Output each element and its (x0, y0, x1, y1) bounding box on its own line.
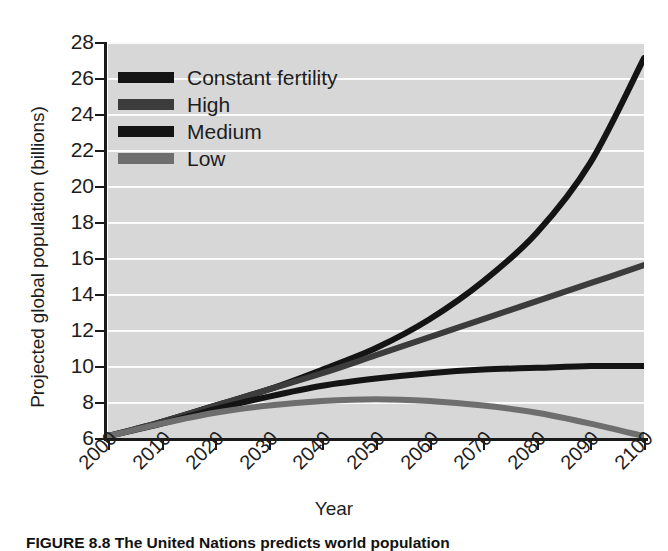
x-axis-title: Year (0, 498, 668, 520)
legend-label: Constant fertility (187, 67, 338, 88)
chart-legend: Constant fertilityHighMediumLow (118, 64, 368, 172)
legend-label: Low (187, 148, 226, 169)
x-tick-label: 2070 (449, 427, 497, 475)
x-tick-label: 2100 (610, 427, 658, 475)
x-tick-label: 2040 (288, 427, 336, 475)
legend-item: Medium (118, 118, 368, 145)
x-tick-label: 2080 (503, 427, 551, 475)
legend-item: Low (118, 145, 368, 172)
x-tick-label: 2060 (396, 427, 444, 475)
x-tick-label: 2050 (342, 427, 390, 475)
legend-item: Constant fertility (118, 64, 368, 91)
legend-swatch (118, 126, 174, 137)
x-tick-label: 2090 (556, 427, 604, 475)
legend-item: High (118, 91, 368, 118)
figure-population-projection: Projected global population (billions) 6… (0, 0, 668, 551)
x-tick-label: 2020 (181, 427, 229, 475)
figure-caption: FIGURE 8.8 The United Nations predicts w… (26, 534, 656, 551)
legend-swatch (118, 99, 174, 110)
legend-swatch (118, 153, 174, 164)
x-tick-label: 2030 (235, 427, 283, 475)
legend-label: Medium (187, 121, 262, 142)
x-tick-label: 2000 (74, 427, 122, 475)
legend-swatch (118, 72, 174, 83)
legend-label: High (187, 94, 230, 115)
x-tick-label: 2010 (128, 427, 176, 475)
